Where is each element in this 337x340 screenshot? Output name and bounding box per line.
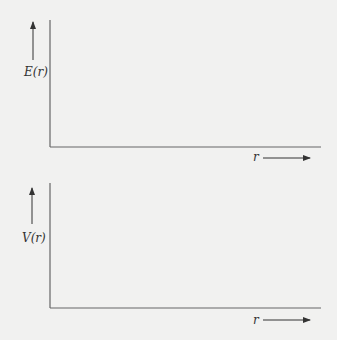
x-axis-label: r bbox=[253, 150, 260, 164]
y-axis-label: E(r) bbox=[23, 65, 48, 79]
x-axis-label: r bbox=[253, 313, 260, 327]
plot-v-of-r: V(r) r bbox=[22, 183, 321, 327]
diagram-canvas: E(r) r V(r) r bbox=[0, 0, 337, 340]
y-axis-label: V(r) bbox=[22, 231, 46, 245]
plot-e-of-r: E(r) r bbox=[23, 20, 321, 164]
